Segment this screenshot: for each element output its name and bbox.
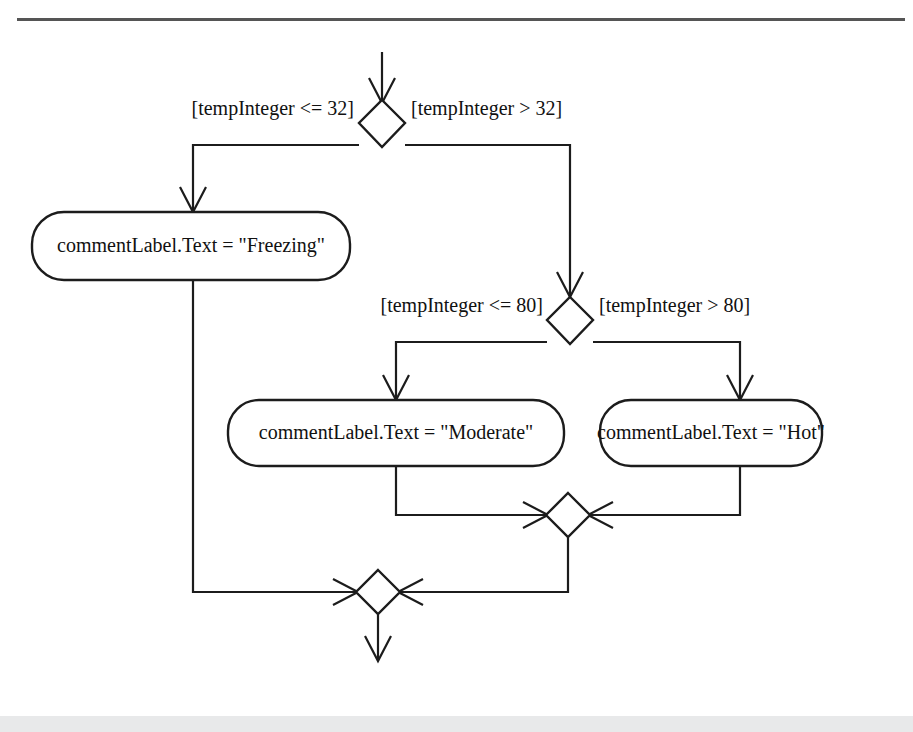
decision-temp-80[interactable]	[547, 297, 593, 344]
bottom-band	[0, 716, 913, 732]
flow-line	[396, 342, 547, 399]
guard-label-temp-gt-32: [tempInteger > 32]	[411, 97, 562, 120]
diagram-page: [tempInteger <= 32] [tempInteger > 32] c…	[0, 0, 913, 732]
merge-diamond-shape	[356, 570, 400, 614]
flow-line	[405, 145, 570, 296]
action-freezing[interactable]: commentLabel.Text = "Freezing"	[32, 212, 350, 280]
merge-diamond-shape	[546, 493, 590, 537]
flow-line	[593, 342, 740, 399]
flow-merge-inner-to-merge-outer	[398, 537, 568, 605]
guard-label-temp-le-80: [tempInteger <= 80]	[381, 294, 544, 317]
flow-decision32-to-freezing	[180, 145, 359, 212]
flow-line	[589, 466, 740, 515]
flow-decision32-to-decision80	[405, 145, 583, 297]
flow-decision80-to-hot	[593, 342, 753, 400]
action-moderate-label: commentLabel.Text = "Moderate"	[259, 421, 533, 443]
action-hot[interactable]: commentLabel.Text = "Hot"	[597, 400, 825, 466]
flow-out-of-merge-outer	[365, 614, 391, 661]
decision-diamond-shape	[547, 297, 593, 344]
uml-activity-diagram-canvas: [tempInteger <= 32] [tempInteger > 32] c…	[0, 0, 913, 732]
flow-line	[399, 537, 568, 592]
guard-label-temp-le-32: [tempInteger <= 32]	[192, 97, 355, 120]
guard-label-temp-gt-80: [tempInteger > 80]	[599, 294, 750, 317]
flow-decision80-to-moderate	[383, 342, 547, 400]
flow-moderate-to-merge-inner	[396, 466, 548, 528]
merge-outer[interactable]	[356, 570, 400, 614]
merge-inner[interactable]	[546, 493, 590, 537]
flow-hot-to-merge-inner	[588, 466, 740, 528]
decision-temp-32[interactable]	[359, 100, 405, 147]
action-hot-label: commentLabel.Text = "Hot"	[597, 421, 825, 443]
flow-line	[193, 145, 359, 211]
action-freezing-label: commentLabel.Text = "Freezing"	[57, 234, 325, 257]
flow-line	[396, 466, 547, 515]
decision-diamond-shape	[359, 100, 405, 147]
flow-into-decision-temp-32	[369, 52, 395, 103]
action-moderate[interactable]: commentLabel.Text = "Moderate"	[228, 400, 564, 466]
